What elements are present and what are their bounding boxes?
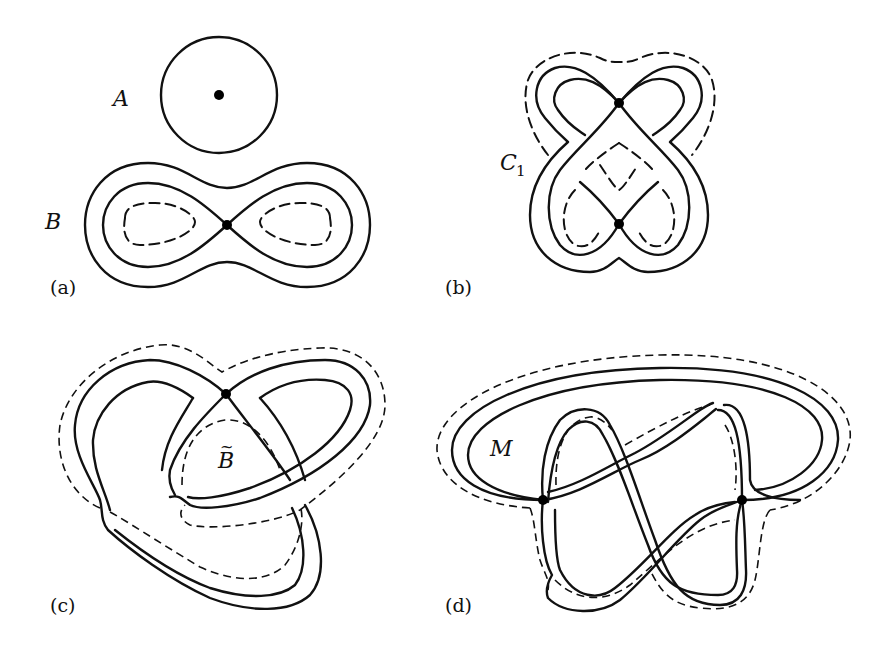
label-C1: C 1: [500, 150, 526, 180]
svg-text:~: ~: [220, 437, 233, 456]
panel-b: C 1 (b): [445, 53, 715, 298]
crossing-point: [221, 389, 231, 399]
panel-d: M (d): [437, 355, 850, 616]
crossing-point-bottom: [614, 219, 624, 229]
panel-label-a: (a): [50, 276, 76, 298]
label-B-tilde: B ~: [217, 437, 234, 473]
crossing-point-right: [737, 495, 747, 505]
panel-a: A B (a): [44, 37, 370, 298]
crossing-point-top: [614, 98, 624, 108]
disk-a: [161, 37, 277, 153]
crossing-point-left: [538, 495, 548, 505]
figure-eight-b: [85, 163, 370, 287]
label-A: A: [111, 86, 129, 111]
panel-c: B ~ (c): [50, 345, 385, 616]
svg-text:1: 1: [516, 162, 526, 180]
label-M: M: [489, 436, 513, 461]
panel-label-c: (c): [50, 594, 75, 616]
svg-text:C: C: [500, 150, 517, 175]
figure-canvas: A B (a): [0, 0, 895, 649]
panel-label-d: (d): [445, 594, 472, 616]
label-B: B: [44, 209, 61, 234]
crossing-point: [222, 220, 232, 230]
panel-label-b: (b): [445, 276, 472, 298]
center-point: [214, 90, 224, 100]
